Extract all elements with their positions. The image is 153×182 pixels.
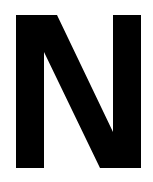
letter-n-icon bbox=[0, 0, 153, 182]
letter-n-canvas: N bbox=[0, 0, 153, 182]
